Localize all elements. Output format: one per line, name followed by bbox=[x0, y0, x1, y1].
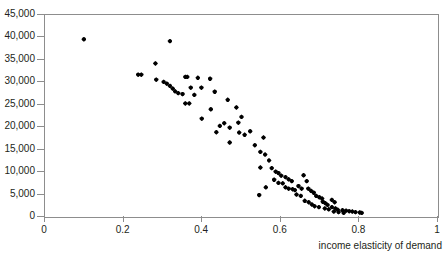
x-axis-tick-label: 1 bbox=[417, 224, 446, 235]
data-point bbox=[261, 135, 266, 140]
y-axis-tick-label: 25,000 bbox=[4, 99, 35, 109]
data-point bbox=[269, 166, 274, 171]
y-axis-tick-label: 30,000 bbox=[4, 76, 35, 86]
x-axis-title: income elasticity of demand bbox=[319, 240, 442, 251]
y-axis-tick-label: 45,000 bbox=[4, 9, 35, 19]
y-axis-tick-label: 35,000 bbox=[4, 54, 35, 64]
y-axis-tick bbox=[37, 216, 44, 217]
data-point bbox=[139, 72, 144, 77]
data-point bbox=[208, 107, 213, 112]
data-point bbox=[242, 132, 247, 137]
data-point bbox=[272, 177, 277, 182]
y-axis-tick-label: 10,000 bbox=[4, 166, 35, 176]
data-point bbox=[199, 85, 204, 90]
y-axis-tick bbox=[37, 14, 44, 15]
y-axis-tick bbox=[37, 171, 44, 172]
x-axis-tick-label: 0.8 bbox=[338, 224, 378, 235]
x-axis-tick bbox=[437, 216, 438, 222]
x-axis-tick bbox=[201, 216, 202, 222]
data-point bbox=[167, 39, 172, 44]
data-point bbox=[239, 114, 244, 119]
data-point bbox=[188, 85, 193, 90]
cropped-header-text bbox=[46, 0, 246, 6]
data-point bbox=[258, 165, 263, 170]
x-axis-tick-label: 0.6 bbox=[260, 224, 300, 235]
data-point bbox=[199, 116, 204, 121]
y-axis-tick bbox=[37, 194, 44, 195]
data-point bbox=[304, 179, 309, 184]
data-point bbox=[81, 37, 86, 42]
data-point bbox=[294, 192, 299, 197]
data-point bbox=[214, 130, 219, 135]
data-point bbox=[276, 180, 281, 185]
y-axis-tick bbox=[37, 59, 44, 60]
y-axis-tick bbox=[37, 149, 44, 150]
data-point bbox=[258, 149, 263, 154]
data-point bbox=[222, 121, 227, 126]
y-axis-tick-label: 0 bbox=[29, 211, 35, 221]
y-axis-tick-label: 40,000 bbox=[4, 31, 35, 41]
x-axis-tick bbox=[44, 216, 45, 222]
data-point bbox=[301, 173, 306, 178]
data-point bbox=[212, 89, 217, 94]
data-point bbox=[237, 130, 242, 135]
data-point bbox=[248, 129, 253, 134]
y-axis-tick-label: 5,000 bbox=[10, 189, 35, 199]
data-point bbox=[153, 61, 158, 66]
y-axis-tick bbox=[37, 36, 44, 37]
data-point bbox=[154, 77, 159, 82]
data-point bbox=[316, 205, 321, 210]
x-axis-tick bbox=[358, 216, 359, 222]
data-point bbox=[236, 120, 241, 125]
scatter-chart-figure: 05,00010,00015,00020,00025,00030,00035,0… bbox=[0, 0, 446, 256]
x-axis-tick bbox=[123, 216, 124, 222]
data-point bbox=[252, 143, 257, 148]
data-point bbox=[187, 101, 192, 106]
x-axis-tick-label: 0.4 bbox=[181, 224, 221, 235]
data-point bbox=[267, 158, 272, 163]
data-point bbox=[234, 105, 239, 110]
data-point bbox=[263, 185, 268, 190]
y-axis-tick bbox=[37, 81, 44, 82]
y-axis-labels: 05,00010,00015,00020,00025,00030,00035,0… bbox=[0, 0, 35, 256]
y-axis-tick-label: 15,000 bbox=[4, 144, 35, 154]
data-point bbox=[192, 92, 197, 97]
y-axis-tick bbox=[37, 126, 44, 127]
data-point bbox=[263, 152, 268, 157]
data-point bbox=[225, 97, 230, 102]
data-point bbox=[227, 140, 232, 145]
y-axis-tick-label: 20,000 bbox=[4, 121, 35, 131]
data-point bbox=[322, 206, 327, 211]
data-point bbox=[208, 76, 213, 81]
data-point bbox=[180, 92, 185, 97]
data-point bbox=[257, 193, 262, 198]
data-point bbox=[217, 123, 222, 128]
x-axis-tick bbox=[280, 216, 281, 222]
data-point bbox=[227, 125, 232, 130]
y-axis-tick bbox=[37, 104, 44, 105]
x-axis-tick-label: 0.2 bbox=[103, 224, 143, 235]
x-axis-tick-label: 0 bbox=[24, 224, 64, 235]
data-point bbox=[195, 75, 200, 80]
data-point bbox=[298, 193, 303, 198]
data-point bbox=[280, 181, 285, 186]
plot-area bbox=[44, 14, 439, 218]
